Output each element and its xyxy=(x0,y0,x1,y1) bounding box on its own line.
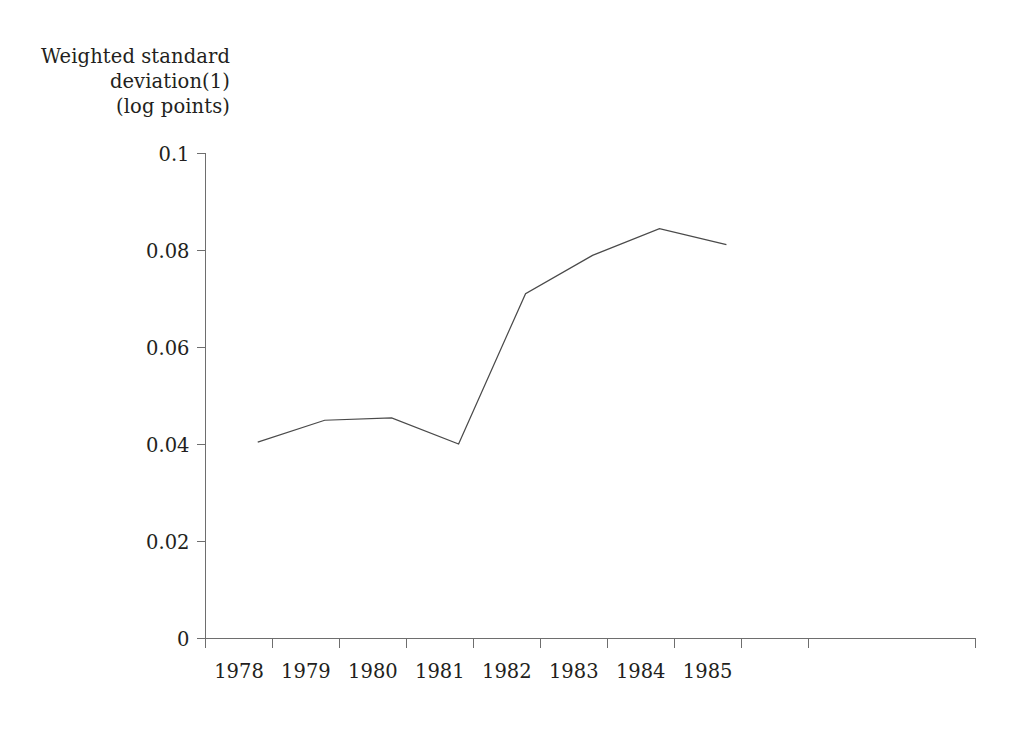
x-axis-tick-label: 1979 xyxy=(281,660,331,683)
x-axis-tick-group xyxy=(206,639,976,648)
x-axis-tick-label: 1981 xyxy=(415,660,465,683)
y-axis-tick-label: 0.08 xyxy=(146,240,189,263)
x-axis-tick-label: 1982 xyxy=(482,660,532,683)
x-axis-tick-label: 1980 xyxy=(348,660,398,683)
x-axis-tick-label: 1985 xyxy=(683,660,733,683)
plot-area: 00.020.040.060.080.1 1978197919801981198… xyxy=(0,0,1030,731)
x-axis-tick-label: 1978 xyxy=(214,660,264,683)
x-axis-tick-label: 1983 xyxy=(549,660,599,683)
line-chart: Weighted standarddeviation(1)(log points… xyxy=(0,0,1030,731)
y-axis-tick-label: 0.1 xyxy=(158,143,189,166)
x-axis-label-group: 19781979198019811982198319841985 xyxy=(214,660,732,683)
y-axis-tick-label: 0.06 xyxy=(146,337,189,360)
y-axis-tick-label: 0 xyxy=(177,628,189,651)
y-axis-tick-label: 0.02 xyxy=(146,531,189,554)
x-axis-tick-label: 1984 xyxy=(616,660,666,683)
data-series-line xyxy=(258,229,727,444)
y-axis-tick-group: 00.020.040.060.080.1 xyxy=(146,143,205,651)
y-axis-tick-label: 0.04 xyxy=(146,434,189,457)
